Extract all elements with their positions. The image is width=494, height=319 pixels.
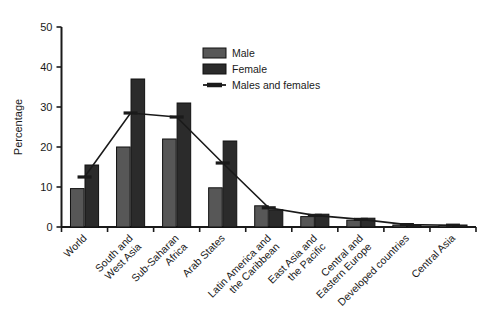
legend-item: Male [203, 47, 255, 59]
bar-male [301, 217, 315, 227]
bar-male [70, 189, 84, 227]
x-axis-category-label-line: World [61, 232, 89, 260]
y-axis-tick-label: 0 [46, 221, 52, 233]
y-axis-tick-label: 40 [40, 61, 52, 73]
legend-item: Female [203, 63, 267, 75]
y-axis-tick-label: 50 [40, 21, 52, 33]
bar-male [347, 220, 361, 227]
legend-item-label: Male [232, 47, 255, 59]
bar-female [177, 103, 191, 227]
y-axis-tick-label: 30 [40, 101, 52, 113]
legend-swatch-icon [203, 48, 226, 58]
bar-female [223, 141, 237, 227]
x-axis-category-label: Sub-SaharanAfrica [129, 232, 190, 293]
legend-swatch-icon [203, 64, 226, 74]
y-axis-tick-label: 10 [40, 181, 52, 193]
y-axis-title: Percentage [12, 99, 24, 155]
bar-female [131, 79, 145, 227]
legend-item: Males and females [203, 79, 320, 91]
bar-male [163, 139, 177, 227]
x-axis-category-label: Arab States [180, 232, 227, 279]
legend: MaleFemaleMales and females [203, 47, 320, 91]
bar-male [209, 188, 223, 227]
bar-chart: 01020304050PercentageWorldSouth andWest … [0, 0, 494, 319]
x-axis-category-label-line: Arab States [180, 232, 227, 279]
y-axis-tick-label: 20 [40, 141, 52, 153]
legend-item-label: Males and females [232, 79, 320, 91]
x-axis-category-label: World [61, 232, 89, 260]
bar-female [269, 210, 283, 227]
x-axis-category-label-line: Central Asia [409, 232, 458, 281]
x-axis-category-label: Central Asia [409, 232, 458, 281]
bar-male [117, 147, 131, 227]
legend-item-label: Female [232, 63, 267, 75]
chart-container: 01020304050PercentageWorldSouth andWest … [0, 0, 494, 319]
x-axis-category-label: East Asia andthe Pacific [265, 232, 327, 294]
